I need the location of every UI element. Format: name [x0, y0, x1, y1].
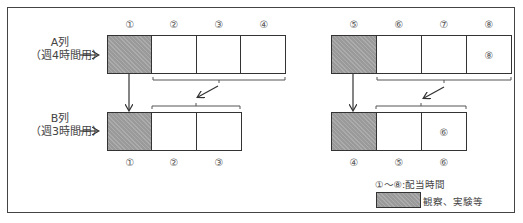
left-diagonal-arrow-icon	[198, 86, 218, 97]
b-left-bracket	[152, 103, 240, 109]
right-diagonal-arrow-icon	[424, 87, 444, 98]
a-left-bracket	[153, 77, 285, 83]
a-right-bracket	[377, 77, 511, 83]
legend-hatch-swatch	[376, 192, 421, 208]
legend-numbers-note: ①～⑧:配当時間	[375, 177, 445, 191]
legend-hatch-note: 観察、実験等	[423, 194, 483, 208]
b-right-bracket	[376, 103, 466, 109]
